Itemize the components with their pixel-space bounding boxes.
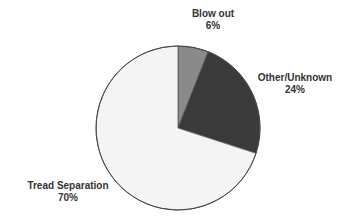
label-other-unknown-pct: 24% (250, 84, 340, 96)
label-blow-out: Blow out 6% (178, 8, 248, 32)
label-tread-separation-pct: 70% (18, 192, 118, 204)
label-other-unknown: Other/Unknown 24% (250, 72, 340, 96)
label-other-unknown-name: Other/Unknown (250, 72, 340, 84)
label-blow-out-name: Blow out (178, 8, 248, 20)
label-tread-separation-name: Tread Separation (18, 180, 118, 192)
label-tread-separation: Tread Separation 70% (18, 180, 118, 204)
label-blow-out-pct: 6% (178, 20, 248, 32)
pie-chart: Blow out 6% Other/Unknown 24% Tread Sepa… (0, 0, 352, 221)
